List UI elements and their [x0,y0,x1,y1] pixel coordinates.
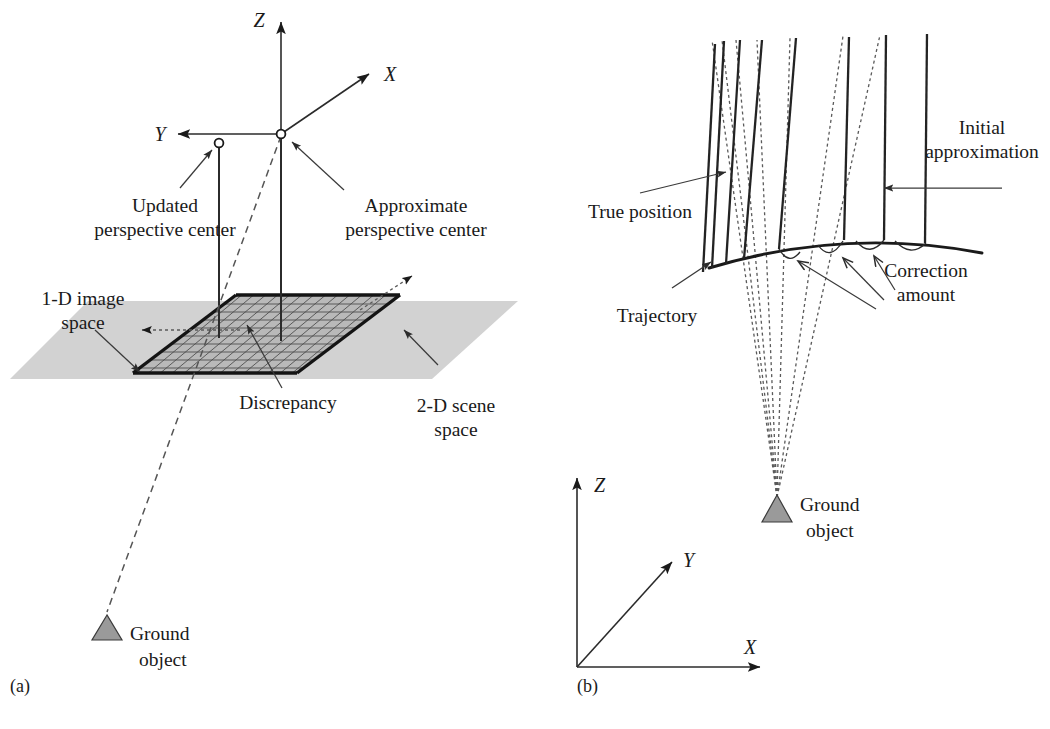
panel-caption-a: (a) [10,676,30,697]
label-updated-perspective-center-line2: perspective center [94,219,236,240]
approximate-perspective-center-node [277,130,286,139]
axis-label-z-a: Z [253,9,265,31]
label-ground-object-b-line1: Ground [800,494,860,515]
label-correction-amount-line2: amount [897,284,956,305]
leader-approximate-center [292,142,344,190]
label-correction-amount-line1: Correction [884,260,968,281]
label-ground-object-b-line2: object [806,520,854,541]
leader-updated-center [180,150,212,188]
ground-object-marker-b [762,495,792,522]
updated-perspective-center-node [215,139,224,148]
label-approximate-perspective-center-line1: Approximate [365,195,468,216]
label-updated-perspective-center-line1: Updated [132,195,198,216]
panel-b-group: Initial approximation True position Traj… [577,34,1039,697]
true-position-lines [703,34,927,272]
label-approximate-perspective-center-line2: perspective center [345,219,487,240]
axis-label-x-b: X [743,636,757,658]
axis-label-y-b: Y [683,549,696,571]
axis-label-y-a: Y [154,123,167,145]
technical-diagram-svg: Z X Y Updated perspective center Approxi… [0,0,1050,729]
ground-object-marker-a [92,615,122,640]
leaders-correction-amount [798,256,895,309]
panel-a-group: Z X Y Updated perspective center Approxi… [10,9,518,697]
label-true-position: True position [588,201,692,222]
figure-root: Z X Y Updated perspective center Approxi… [0,0,1050,729]
axis-y-b [577,562,672,667]
axis-x-a [281,74,369,134]
label-initial-approximation-line1: Initial [959,117,1006,138]
label-one-d-image-space-line1: 1-D image [42,288,125,309]
label-ground-object-a-line2: object [139,649,187,670]
axis-label-x-a: X [383,63,397,85]
label-discrepancy: Discrepancy [239,392,337,413]
label-trajectory: Trajectory [617,305,698,326]
leader-true-position [640,172,726,193]
leader-trajectory [672,262,711,288]
label-two-d-scene-space-line2: space [434,419,477,440]
panel-caption-b: (b) [577,676,598,697]
label-one-d-image-space-line2: space [61,312,104,333]
label-initial-approximation-line2: approximation [925,141,1039,162]
initial-approximation-rays [712,35,880,497]
axis-label-z-b: Z [594,474,606,496]
label-ground-object-a-line1: Ground [130,623,190,644]
label-two-d-scene-space-line1: 2-D scene [417,395,496,416]
